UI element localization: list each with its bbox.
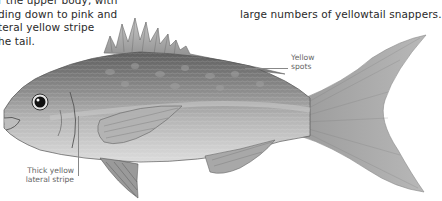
pelvic-fin xyxy=(100,158,138,198)
annotation-lateral-stripe: Thick yellow lateral stripe xyxy=(10,166,74,184)
fish-eye xyxy=(32,94,48,110)
leader-line-stripe xyxy=(78,116,79,176)
caudal-fin xyxy=(300,35,426,192)
annotation-line: Thick yellow xyxy=(10,166,74,175)
annotation-line: spots xyxy=(291,62,314,71)
annotation-line: lateral stripe xyxy=(10,175,74,184)
leader-line-spots xyxy=(245,68,288,69)
annotation-line: Yellow xyxy=(291,53,314,62)
annotation-yellow-spots: Yellow spots xyxy=(291,53,314,71)
